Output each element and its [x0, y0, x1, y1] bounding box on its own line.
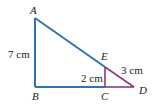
label-point-b: B	[32, 90, 39, 102]
segment-ae	[35, 18, 105, 67]
label-point-a: A	[29, 4, 37, 16]
triangle-diagram: A B C D E 7 cm 2 cm 3 cm	[0, 0, 154, 104]
label-point-e: E	[100, 50, 108, 62]
label-ec-length: 2 cm	[81, 72, 103, 84]
label-ab-length: 7 cm	[8, 48, 30, 60]
label-point-c: C	[101, 90, 109, 102]
label-point-d: D	[138, 84, 147, 96]
label-ed-length: 3 cm	[121, 64, 143, 76]
